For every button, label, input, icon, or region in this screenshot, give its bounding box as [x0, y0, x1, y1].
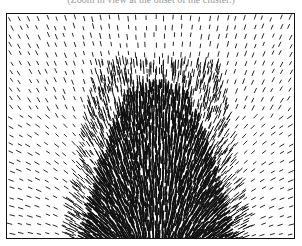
vector-field [7, 14, 295, 239]
figure-caption: (Zoom in view at the onset of the cluste… [0, 0, 302, 6]
quiver-plot-frame [6, 13, 295, 239]
